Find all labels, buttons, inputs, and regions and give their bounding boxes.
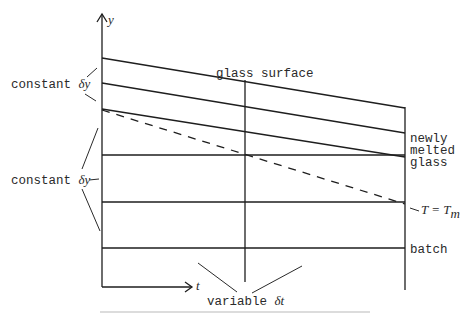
y-axis: y [97,12,114,287]
constant-dy-bottom-annotation: constant δy [11,128,100,231]
constant-dy-top-label: constant δy [11,76,91,92]
y-axis-label: y [106,12,114,27]
melting-front-dashed-line [102,110,405,204]
variable-dt-label: variable δt [207,293,285,309]
melting-temperature-label: T = Tm [421,202,460,221]
horizontal-layers [102,155,405,248]
glass-layer-line [102,83,405,133]
glass-layer-line [102,109,405,157]
t-axis-label: t [196,278,200,293]
svg-text:glass: glass [410,156,448,170]
glass-surface-label: glass surface [216,67,314,81]
glass-melting-diagram: y t glass surface constant δy constant δ… [0,0,474,313]
t-axis: t [102,278,200,293]
melting-temperature-annotation: T = Tm [410,202,460,221]
constant-dy-top-annotation: constant δy [11,68,97,101]
glass-surface-line [102,58,405,108]
variable-dt-annotation: variable δt [198,263,302,309]
batch-label: batch [410,243,448,257]
newly-melted-glass-label: newly melted glass [410,132,455,170]
constant-dy-bottom-label: constant δy [11,172,91,188]
